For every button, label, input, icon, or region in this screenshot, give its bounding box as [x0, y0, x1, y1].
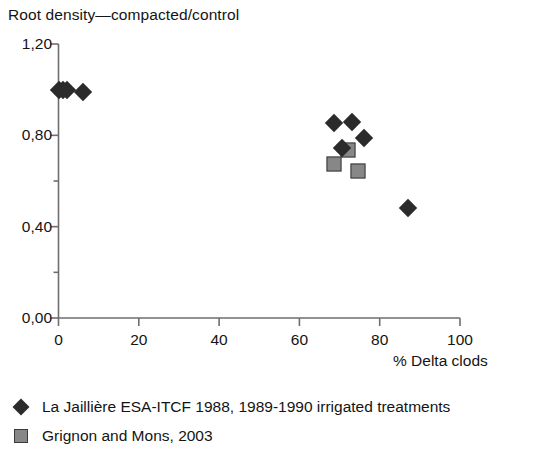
y-axis-tick-label: 0,80: [6, 126, 52, 144]
legend-item-grignon-mons: Grignon and Mons, 2003: [8, 421, 532, 450]
x-axis-tick-label: 40: [210, 331, 227, 349]
legend-item-label: La Jaillière ESA-ITCF 1988, 1989-1990 ir…: [42, 398, 450, 416]
chart-axes: [0, 0, 538, 460]
legend-square-marker-icon: [8, 429, 34, 443]
chart-legend: La Jaillière ESA-ITCF 1988, 1989-1990 ir…: [8, 392, 532, 450]
x-axis-tick-label: 100: [447, 331, 473, 349]
data-point-square: [326, 156, 341, 171]
y-axis-tick-label: 0,00: [6, 309, 52, 327]
scatter-chart-figure: Root density—compacted/control 0,000,400…: [0, 0, 538, 460]
legend-item-la-jailliere: La Jaillière ESA-ITCF 1988, 1989-1990 ir…: [8, 392, 532, 421]
x-axis-ticks: [59, 318, 461, 326]
y-axis-tick-label: 0,40: [6, 218, 52, 236]
x-axis-tick-label: 0: [54, 331, 63, 349]
legend-diamond-marker-icon: [8, 401, 34, 413]
x-axis-tick-label: 80: [371, 331, 388, 349]
legend-item-label: Grignon and Mons, 2003: [42, 427, 213, 445]
x-axis-tick-label: 60: [291, 331, 308, 349]
y-axis-tick-label: 1,20: [6, 35, 52, 53]
axis-lines: [59, 44, 461, 318]
x-axis-tick-label: 20: [130, 331, 147, 349]
data-point-square: [350, 163, 365, 178]
x-axis-title: % Delta clods: [393, 352, 488, 370]
